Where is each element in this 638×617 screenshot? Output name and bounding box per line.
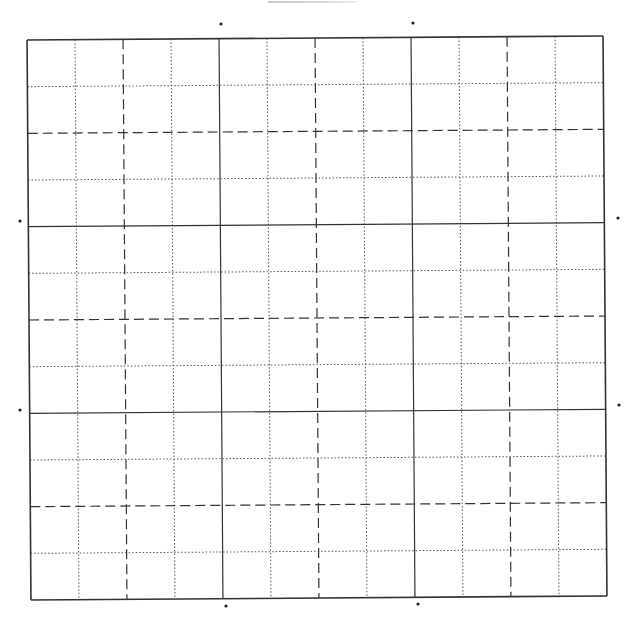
right-marker-2-dot-icon: [617, 403, 620, 406]
vertical-line-4-major: [219, 39, 223, 599]
horizontal-line-7-minor: [29, 363, 605, 367]
grid-lines: [27, 36, 607, 600]
left-marker-2-dot-icon: [18, 408, 21, 411]
right-marker-1-dot-icon: [616, 216, 619, 219]
top-marker-1-dot-icon: [219, 22, 222, 25]
left-marker-1-dot-icon: [18, 219, 21, 222]
grid-diagram: [0, 0, 638, 617]
horizontal-line-8-major: [30, 409, 606, 413]
registration-markers: [18, 21, 620, 607]
bottom-marker-2-dot-icon: [416, 602, 419, 605]
vertical-line-9-minor: [459, 37, 463, 597]
bottom-marker-1-dot-icon: [224, 604, 227, 607]
top-marker-2-dot-icon: [411, 21, 414, 24]
